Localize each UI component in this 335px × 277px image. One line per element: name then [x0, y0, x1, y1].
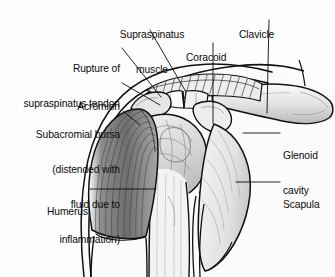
label-coracoid: Coracoid: [186, 29, 248, 75]
label-humerus: Humerus: [20, 183, 88, 229]
label-clavicle: Clavicle: [239, 6, 299, 52]
label-subacromial-bursa: Subacromial bursa (distended with fluid …: [8, 106, 120, 257]
label-scapula: Scapula: [283, 176, 335, 222]
